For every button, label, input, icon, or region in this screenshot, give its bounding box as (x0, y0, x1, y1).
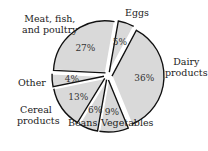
label-dairy: Dairy products (165, 56, 208, 78)
slice-value-label: 9% (105, 107, 120, 117)
slice-value-label: 6% (88, 105, 103, 115)
slice-value-label: 27% (75, 43, 95, 53)
label-beans: Beans (68, 117, 97, 128)
label-vegetables: Vegetables (101, 117, 153, 128)
label-dairy-line1: Dairy (165, 56, 208, 67)
label-meat-line1: Meat, fish, (22, 13, 78, 24)
label-cereal: Cereal products (17, 104, 55, 126)
label-meat: Meat, fish, and poultry (22, 13, 78, 35)
slice-value-label: 36% (134, 73, 154, 83)
label-meat-line2: and poultry (22, 24, 78, 35)
label-cereal-line2: products (17, 115, 55, 126)
slice-value-label: 5% (113, 37, 128, 47)
slice-value-label: 13% (68, 92, 88, 102)
slice-value-label: 4% (65, 74, 80, 84)
label-cereal-line1: Cereal (17, 104, 55, 115)
label-other: Other (18, 77, 46, 88)
label-dairy-line2: products (165, 67, 208, 78)
label-eggs: Eggs (125, 7, 149, 18)
